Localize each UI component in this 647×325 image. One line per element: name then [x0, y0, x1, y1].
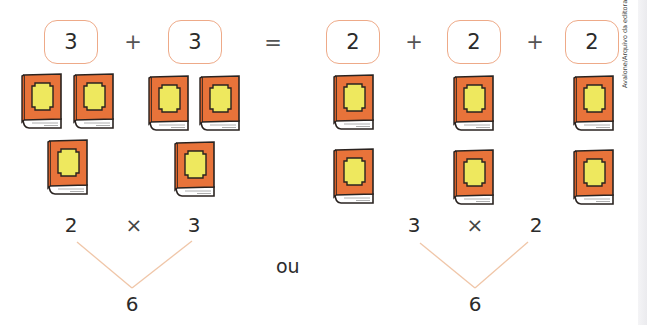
factor-2: 2	[526, 214, 546, 236]
factor-3: 3	[184, 214, 204, 236]
factor-2: 2	[61, 214, 81, 236]
times-sign: ×	[465, 214, 485, 236]
connector-word-ou: ou	[276, 255, 300, 277]
factor-3: 3	[404, 214, 424, 236]
multiplication-tree-lines	[0, 0, 647, 325]
product-6: 6	[465, 293, 485, 315]
image-credit: Avalone/Arquivo da editora	[621, 0, 629, 88]
product-6: 6	[122, 293, 142, 315]
times-sign: ×	[124, 214, 144, 236]
